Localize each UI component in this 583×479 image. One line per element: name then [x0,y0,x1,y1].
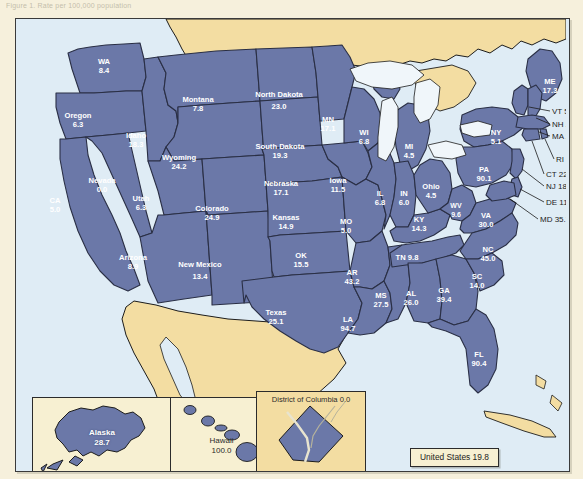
state-label: SC 14.0 [470,272,485,290]
label-mn-name: MN [322,115,334,124]
state-md[interactable] [486,181,516,201]
lake-michigan [378,97,398,161]
label-me-value: 17.3 [543,86,558,95]
state-label: NC 45.0 [481,245,496,263]
state-ct[interactable] [522,129,540,141]
label-nd-value: 23.0 [272,102,287,111]
state-nh[interactable] [528,85,542,119]
island-kauai [184,406,196,415]
state-label: Utah 6.3 [133,194,150,212]
label-wv-value: 9.6 [451,211,461,218]
label-sc-value: 14.0 [470,281,485,290]
label-co-name: Colorado [195,204,229,213]
label-oh-name: Ohio [422,182,440,191]
label-ok-name: OK [295,251,307,260]
label-wv-name: WV [450,202,462,209]
label-ms-value: 27.5 [374,300,390,309]
river-branch [331,402,345,422]
label-il-name: IL [377,189,384,198]
lake-huron [414,79,440,123]
label-va-value: 30.0 [479,220,494,229]
label-nd-name: North Dakota [255,90,303,99]
label-fl-name: FL [474,350,484,359]
lake-superior [350,61,424,89]
island-molokai [215,425,227,431]
label-oh-value: 4.5 [426,191,437,200]
alaska-name: Alaska [89,428,115,437]
label-ky-value: 14.3 [412,224,427,233]
us-total-box: United States 19.8 [410,448,499,467]
label-ca-value: 5.0 [50,205,61,214]
label-fl-value: 90.4 [472,359,488,368]
state-vt[interactable] [512,85,528,115]
label-ok-value: 15.5 [294,260,310,269]
leader-line-ri [545,139,554,159]
cuba-landmass [484,411,556,437]
state-label: WI 6.8 [359,128,370,146]
label-mi-name: MI [405,142,413,151]
label-ms-name: MS [375,291,386,300]
label-wa-value: 8.4 [99,66,110,75]
label-al-value: 26.0 [404,298,419,307]
label-mt-name: Montana [182,95,214,104]
state-wy[interactable] [166,101,264,161]
leader-line-de [520,189,544,202]
callout-vt: VT 51.4 [552,107,566,116]
callout-nh: NH 2.8 [552,120,566,129]
inset-alaska: Alaska 28.7 [32,397,172,472]
state-label: ME 17.3 [543,77,558,95]
state-label: IN 6.0 [399,189,410,207]
label-nm-name: New Mexico [178,260,222,269]
label-id-name: Idaho [126,131,147,140]
label-ny-value: 5.1 [491,137,502,146]
label-ny-name: NY [491,128,502,137]
label-wa-name: WA [98,57,111,66]
callout-ri: RI 6.9 [556,155,566,164]
label-nm-value: 13.4 [193,272,209,281]
label-wy-name: Wyoming [162,153,196,162]
label-or-value: 6.3 [73,120,84,129]
callout-de: DE 11.8 [546,198,566,207]
state-label: NY 5.1 [491,128,502,146]
label-az-value: 8.9 [128,262,139,271]
label-ia-name: Iowa [330,176,348,185]
state-label: AR 43.2 [345,268,360,286]
dc-label: District of Columbia 0.0 [257,395,365,405]
state-label: MO 5.0 [340,217,352,235]
state-az[interactable] [140,211,212,303]
alaska-label-block: Alaska 28.7 [33,428,171,448]
label-tx-value: 25.1 [269,317,285,326]
label-mo-value: 5.0 [341,226,352,235]
label-ne-value: 17.1 [274,188,290,197]
label-mn-value: 17.1 [321,124,337,133]
label-mi-value: 4.5 [404,151,415,160]
label-wy-value: 24.2 [172,162,187,171]
label-ks-name: Kansas [272,213,299,222]
label-ky-name: KY [414,215,425,224]
label-sc-name: SC [472,272,483,281]
inset-dc: District of Columbia 0.0 [256,391,366,472]
label-ne-name: Nebraska [264,179,299,188]
label-ga-value: 39.4 [437,295,453,304]
label-pa-name: PA [479,165,490,174]
label-ut-value: 6.3 [136,203,147,212]
label-al-name: AL [406,289,416,298]
label-la-value: 94.7 [341,324,356,333]
label-me-name: ME [544,77,555,86]
state-ok[interactable] [268,231,350,277]
map-frame: WA 8.4 Oregon 6.3 CA 5.0 Nevada 0.0 Idah… [15,18,570,472]
state-label: Texas 25.1 [266,308,287,326]
label-ia-value: 11.5 [331,185,346,194]
state-nj[interactable] [510,149,524,179]
label-va-name: VA [481,211,492,220]
label-wi-name: WI [359,128,368,137]
island-oahu [202,416,215,426]
label-id-value: 18.3 [129,140,144,149]
label-sd-name: South Dakota [256,142,306,151]
label-tx-name: Texas [266,308,287,317]
label-mo-name: MO [340,217,352,226]
lake-erie [428,141,466,159]
label-nv-name: Nevada [88,176,116,185]
callout-md: MD 35.7 [540,215,566,224]
label-ar-value: 43.2 [345,277,360,286]
